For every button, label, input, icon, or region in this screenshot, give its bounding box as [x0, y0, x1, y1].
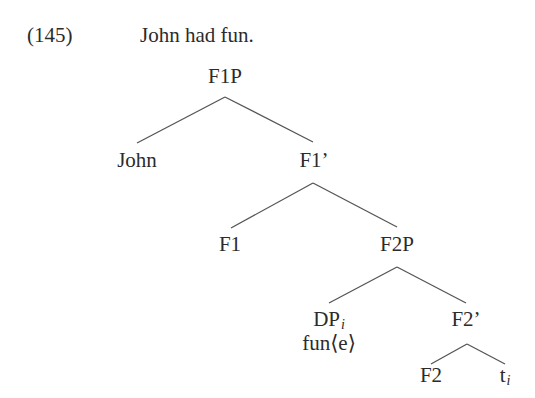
edge-f1p-f1bar	[225, 97, 313, 142]
edge-f2p-f2bar	[397, 267, 466, 303]
node-trace-index: i	[506, 373, 510, 388]
node-john: John	[117, 150, 157, 171]
node-trace: ti	[500, 365, 511, 388]
tree-edges	[0, 0, 535, 398]
edge-f2p-dp	[329, 267, 397, 303]
node-f2: F2	[420, 365, 442, 386]
edge-f1bar-f2p	[313, 183, 397, 227]
edge-f2bar-trace	[467, 344, 505, 364]
node-dp-annotation: fun⟨e⟩	[302, 333, 356, 354]
node-dp-index: i	[341, 317, 345, 332]
node-f1: F1	[219, 234, 241, 255]
edge-f1bar-f1	[231, 183, 313, 228]
node-f2p: F2P	[380, 234, 414, 255]
edge-f1p-john	[137, 97, 225, 143]
edge-f2bar-f2	[431, 344, 467, 364]
node-f2-bar: F2’	[451, 309, 480, 330]
node-f1p: F1P	[208, 66, 242, 87]
node-dp-label: DP	[313, 307, 340, 331]
node-f1-bar: F1’	[299, 150, 328, 171]
node-trace-label: t	[500, 363, 506, 387]
node-dp: DPi	[313, 309, 345, 332]
